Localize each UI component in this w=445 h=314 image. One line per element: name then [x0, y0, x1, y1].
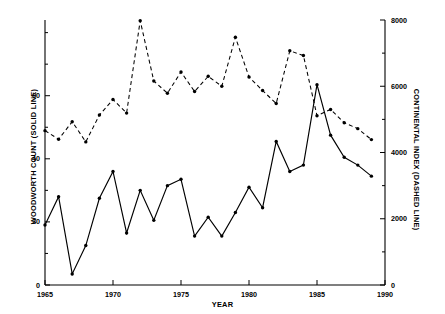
- x-tick-1965: 1965: [25, 290, 65, 299]
- y-right-tick-6000: 6000: [391, 82, 425, 91]
- data-point: [207, 215, 210, 218]
- data-point: [261, 206, 264, 209]
- left-axis-ticks: [45, 33, 50, 285]
- data-point: [275, 102, 278, 105]
- y-right-tick-0: 0: [391, 281, 425, 290]
- data-point: [57, 138, 60, 141]
- continental-index-markers: [43, 19, 373, 144]
- continental-index-line: [45, 21, 371, 142]
- x-axis-title: YEAR: [0, 300, 445, 309]
- data-point: [315, 114, 318, 117]
- data-point: [139, 19, 142, 22]
- data-point: [261, 89, 264, 92]
- woodworth-count-markers: [43, 83, 373, 276]
- data-point: [329, 108, 332, 111]
- data-point: [193, 234, 196, 237]
- data-point: [356, 127, 359, 130]
- data-point: [247, 75, 250, 78]
- x-tick-1970: 1970: [93, 290, 133, 299]
- data-point: [98, 113, 101, 116]
- chart-figure: WOODWORTH COUNT (SOLID LINE) CONTINENTAL…: [0, 0, 445, 314]
- right-axis-ticks: [380, 20, 385, 285]
- data-point: [370, 138, 373, 141]
- data-point: [302, 54, 305, 57]
- data-point: [84, 244, 87, 247]
- data-point: [220, 85, 223, 88]
- y-left-tick-0: 0: [14, 281, 40, 290]
- data-point: [356, 163, 359, 166]
- data-point: [152, 79, 155, 82]
- data-point: [247, 186, 250, 189]
- data-point: [315, 83, 318, 86]
- y-left-tick-40: 40: [14, 154, 40, 163]
- data-point: [43, 129, 46, 132]
- data-point: [125, 111, 128, 114]
- data-point: [125, 231, 128, 234]
- data-point: [139, 189, 142, 192]
- data-point: [43, 223, 46, 226]
- data-point: [111, 98, 114, 101]
- y-right-tick-8000: 8000: [391, 16, 425, 25]
- data-point: [329, 133, 332, 136]
- x-tick-1975: 1975: [161, 290, 201, 299]
- x-tick-1985: 1985: [297, 290, 337, 299]
- data-point: [370, 174, 373, 177]
- data-point: [288, 49, 291, 52]
- x-tick-1980: 1980: [229, 290, 269, 299]
- data-point: [275, 140, 278, 143]
- data-point: [179, 178, 182, 181]
- data-point: [193, 90, 196, 93]
- data-point: [343, 156, 346, 159]
- data-point: [166, 92, 169, 95]
- data-point: [234, 211, 237, 214]
- plot-area: [0, 0, 445, 314]
- data-point: [302, 163, 305, 166]
- data-point: [98, 197, 101, 200]
- data-point: [288, 170, 291, 173]
- data-point: [152, 219, 155, 222]
- data-point: [84, 140, 87, 143]
- y-right-tick-4000: 4000: [391, 148, 425, 157]
- data-point: [71, 120, 74, 123]
- data-point: [220, 234, 223, 237]
- y-left-tick-20: 20: [14, 217, 40, 226]
- data-point: [234, 36, 237, 39]
- data-point: [71, 272, 74, 275]
- x-tick-1990: 1990: [365, 290, 405, 299]
- data-point: [111, 170, 114, 173]
- data-point: [179, 70, 182, 73]
- x-axis-ticks: [45, 280, 385, 285]
- data-point: [57, 195, 60, 198]
- y-left-tick-60: 60: [14, 91, 40, 100]
- data-point: [343, 121, 346, 124]
- y-right-tick-2000: 2000: [391, 214, 425, 223]
- data-point: [207, 75, 210, 78]
- data-point: [166, 184, 169, 187]
